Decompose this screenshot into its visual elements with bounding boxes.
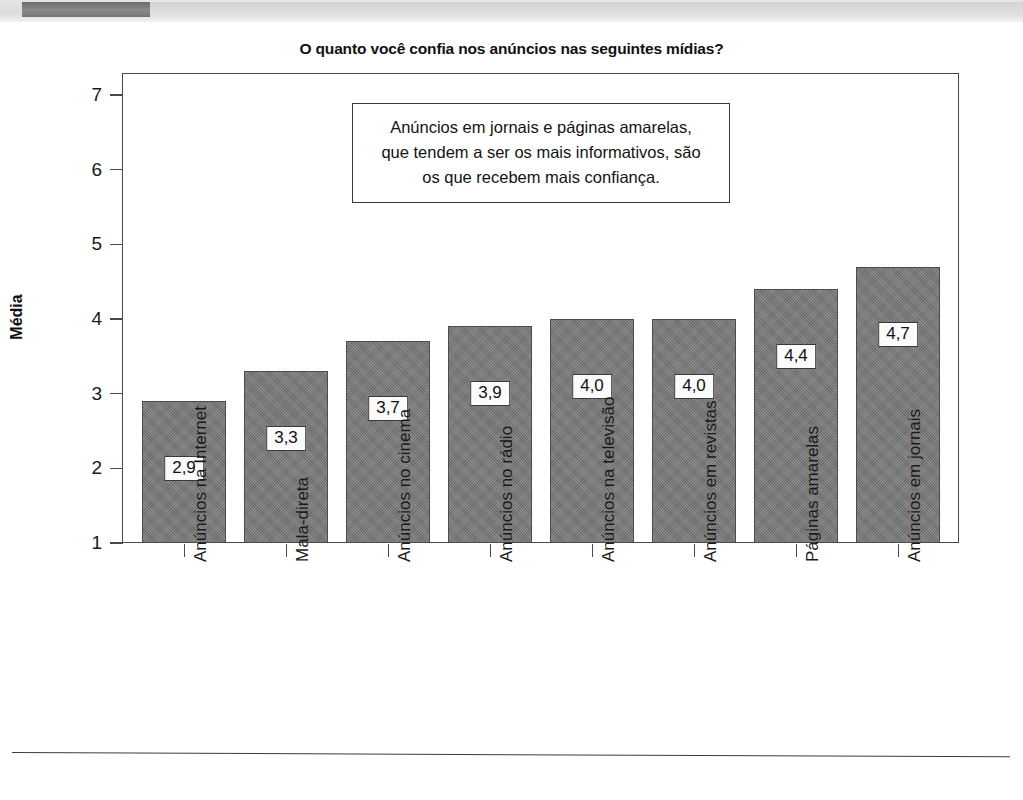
bar-value-label: 4,0 <box>674 374 714 399</box>
annotation-callout: Anúncios em jornais e páginas amarelas, … <box>352 103 730 203</box>
chart-title: O quanto você confia nos anúncios nas se… <box>0 40 1023 58</box>
header-shade-strip <box>150 2 1023 16</box>
x-tick-label: Anúncios na Internet <box>191 406 211 562</box>
page-header-band <box>0 0 1023 22</box>
x-tick-mark <box>694 544 695 557</box>
x-tick-label: Anúncios na televisão <box>599 397 619 562</box>
y-tick-label: 1 <box>62 532 102 554</box>
bar-value-label: 4,4 <box>776 344 816 369</box>
x-tick-label: Anúncios no rádio <box>497 426 517 562</box>
y-tick-label: 3 <box>62 383 102 405</box>
y-tick-label: 5 <box>62 233 102 255</box>
x-tick-mark <box>898 544 899 557</box>
bar <box>652 319 736 543</box>
bar-value-label: 4,7 <box>878 322 918 347</box>
x-tick-label: Anúncios em revistas <box>701 400 721 562</box>
bar <box>244 371 328 543</box>
bar <box>448 326 532 543</box>
x-tick-mark <box>388 544 389 557</box>
x-tick-mark <box>184 544 185 557</box>
annotation-line-2: que tendem a ser os mais informativos, s… <box>363 140 719 165</box>
x-tick-label: Mala-direta <box>293 477 313 562</box>
bottom-divider <box>12 752 1010 758</box>
y-tick-mark <box>110 244 123 245</box>
y-tick-label: 7 <box>62 84 102 106</box>
y-tick-label: 2 <box>62 457 102 479</box>
y-tick-label: 6 <box>62 159 102 181</box>
y-tick-label: 4 <box>62 308 102 330</box>
y-tick-mark <box>110 318 123 319</box>
x-tick-label: Anúncios no cinema <box>395 409 415 562</box>
y-tick-mark <box>110 468 123 469</box>
y-tick-mark <box>110 169 123 170</box>
bar <box>550 319 634 543</box>
bar <box>346 341 430 543</box>
y-axis-title: Média <box>8 294 26 339</box>
bar <box>754 289 838 543</box>
header-tab-block <box>22 2 150 17</box>
x-tick-mark <box>592 544 593 557</box>
annotation-line-3: os que recebem mais confiança. <box>363 165 719 190</box>
x-tick-label: Anúncios em jornais <box>905 409 925 562</box>
x-tick-label: Páginas amarelas <box>803 426 823 562</box>
bar-value-label: 3,3 <box>266 426 306 451</box>
y-tick-mark <box>110 393 123 394</box>
y-tick-mark <box>110 542 123 543</box>
annotation-line-1: Anúncios em jornais e páginas amarelas, <box>363 115 719 140</box>
x-tick-mark <box>796 544 797 557</box>
bar-value-label: 4,0 <box>572 374 612 399</box>
y-tick-mark <box>110 94 123 95</box>
bar <box>856 267 940 543</box>
x-tick-mark <box>286 544 287 557</box>
x-tick-mark <box>490 544 491 557</box>
bar-value-label: 3,9 <box>470 381 510 406</box>
